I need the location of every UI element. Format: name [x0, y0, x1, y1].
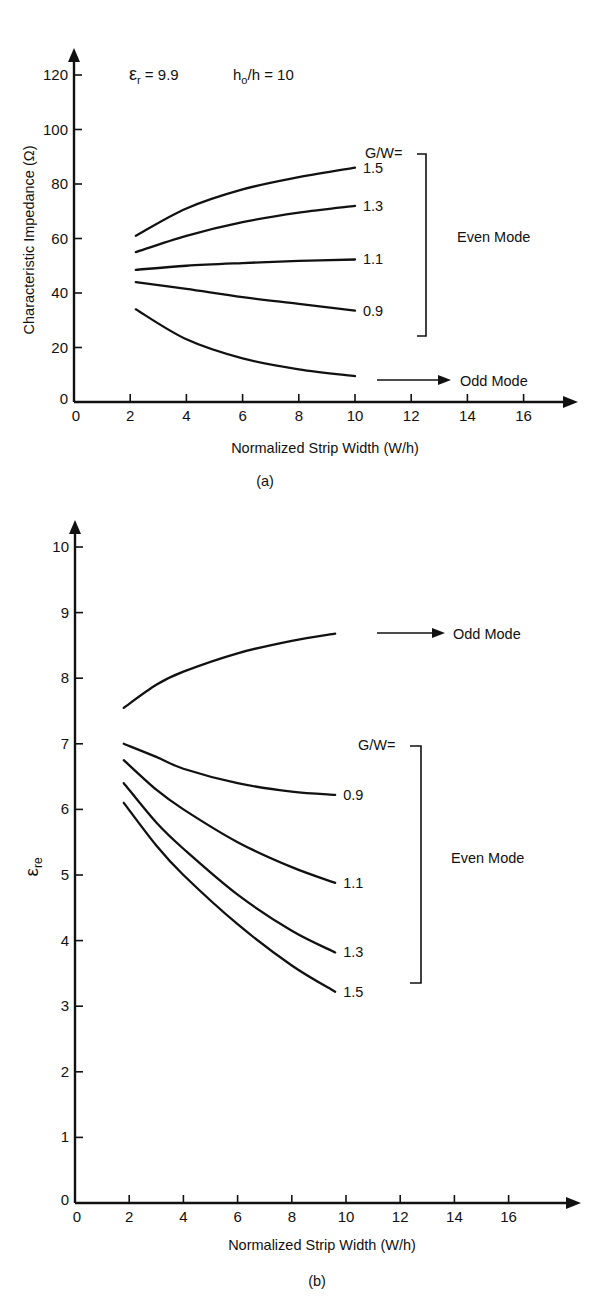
x-tick-label: 2 [125, 1208, 133, 1225]
even-mode-bracket-b [410, 746, 421, 983]
height-ratio-annotation: ho/h = 10 [233, 66, 294, 86]
x-tick-label: 16 [515, 407, 532, 424]
epsilon-r-annotation: εr = 9.9 [129, 64, 179, 86]
gw-legend-header-b: G/W= [358, 737, 395, 753]
x-tick-label: 2 [126, 407, 134, 424]
y-axis-label-b: εre [21, 857, 45, 876]
y-ticks-a: 020406080100120 [43, 66, 82, 407]
y-tick-label: 8 [61, 669, 69, 686]
y-tick-label: 2 [61, 1063, 69, 1080]
x-tick-label: 10 [338, 1208, 355, 1225]
arrow-right-icon [432, 628, 445, 638]
x-tick-label: 4 [179, 1208, 187, 1225]
even-mode-bracket-a [417, 154, 426, 336]
y-tick-label: 1 [61, 1128, 69, 1145]
x-tick-label: 6 [233, 1208, 241, 1225]
x-axis-arrow-icon [566, 1197, 581, 1209]
series-label: 1.1 [343, 875, 363, 891]
x-tick-label: 0 [73, 1208, 81, 1225]
series-curve [136, 309, 355, 376]
y-tick-label: 100 [43, 121, 68, 138]
y-tick-label: 20 [51, 339, 68, 356]
series-label: 1.3 [343, 944, 363, 960]
even-mode-label-a: Even Mode [457, 229, 530, 245]
series-curve [124, 783, 335, 952]
y-tick-label: 120 [43, 66, 68, 83]
y-axis-arrow-icon [69, 520, 81, 534]
series-curve [136, 259, 355, 269]
x-tick-label: 16 [500, 1208, 517, 1225]
y-tick-label: 7 [61, 735, 69, 752]
x-axis-label-a: Normalized Strip Width (W/h) [231, 440, 419, 456]
y-tick-label: 3 [61, 997, 69, 1014]
y-ticks-b: 012345678910 [52, 538, 83, 1208]
series-label: 1.3 [363, 198, 383, 214]
series-label: 1.5 [363, 160, 383, 176]
series-label: 1.5 [343, 984, 363, 1000]
y-tick-label: 9 [61, 604, 69, 621]
x-axis-arrow-icon [563, 396, 578, 408]
caption-b: (b) [308, 1273, 326, 1289]
chart-a-impedance: 020406080100120 0246810121416 1.51.31.10… [21, 48, 578, 489]
y-axis-label-a: Characteristic Impedance (Ω) [21, 146, 37, 335]
odd-mode-label-b: Odd Mode [453, 626, 521, 642]
caption-a: (a) [256, 473, 274, 489]
chart-b-effective-permittivity: 012345678910 0246810121416 0.91.11.31.5 … [21, 520, 581, 1289]
x-axis-label-b: Normalized Strip Width (W/h) [228, 1237, 416, 1253]
y-tick-label: 6 [61, 800, 69, 817]
y-tick-label: 40 [51, 284, 68, 301]
y-tick-label: 0 [60, 390, 68, 407]
x-tick-label: 6 [238, 407, 246, 424]
series-label: 1.1 [363, 251, 383, 267]
y-tick-label: 60 [51, 230, 68, 247]
series-label: 0.9 [343, 787, 363, 803]
series-curve [124, 744, 335, 795]
x-tick-label: 8 [295, 407, 303, 424]
odd-mode-label-a: Odd Mode [460, 373, 528, 389]
figure: 020406080100120 0246810121416 1.51.31.10… [0, 0, 609, 1310]
even-mode-label-b: Even Mode [451, 850, 524, 866]
x-tick-label: 8 [288, 1208, 296, 1225]
x-tick-label: 12 [392, 1208, 409, 1225]
x-tick-label: 0 [72, 407, 80, 424]
x-ticks-a: 0246810121416 [72, 394, 532, 424]
x-tick-label: 10 [347, 407, 364, 424]
series-label: 0.9 [363, 303, 383, 319]
arrow-right-icon [438, 375, 451, 385]
y-tick-label: 80 [51, 175, 68, 192]
x-tick-label: 14 [459, 407, 476, 424]
series-curve [136, 168, 355, 236]
x-ticks-b: 0246810121416 [73, 1195, 517, 1225]
x-tick-label: 12 [403, 407, 420, 424]
x-tick-label: 4 [182, 407, 190, 424]
y-tick-label: 0 [61, 1191, 69, 1208]
gw-legend-header-a: G/W= [365, 145, 402, 161]
series-curve [136, 282, 355, 311]
series-curve [124, 803, 335, 992]
y-tick-label: 10 [52, 538, 69, 555]
series-curve [124, 634, 335, 708]
curves-a: 1.51.31.10.9 [136, 160, 383, 376]
x-tick-label: 14 [446, 1208, 463, 1225]
series-curve [136, 206, 355, 252]
y-tick-label: 5 [61, 866, 69, 883]
curves-b: 0.91.11.31.5 [124, 634, 364, 1000]
y-tick-label: 4 [61, 932, 69, 949]
y-axis-arrow-icon [68, 48, 80, 62]
